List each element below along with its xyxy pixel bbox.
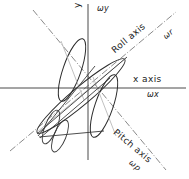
omega-y-label: ωy bbox=[97, 4, 109, 13]
omega-x-label: ωx bbox=[147, 90, 159, 99]
x-axis-label: x axis bbox=[133, 74, 162, 84]
wing-root-right-edge bbox=[39, 131, 104, 137]
aircraft-vertical-tail bbox=[39, 108, 64, 146]
y-axis-label: y axis bbox=[72, 0, 82, 8]
aircraft-axes-diagram: y axis ωy x axis ωx Roll axis ωr Pitch a… bbox=[0, 0, 189, 179]
diagram-canvas bbox=[0, 0, 189, 179]
wing-root-left-edge bbox=[38, 66, 95, 136]
